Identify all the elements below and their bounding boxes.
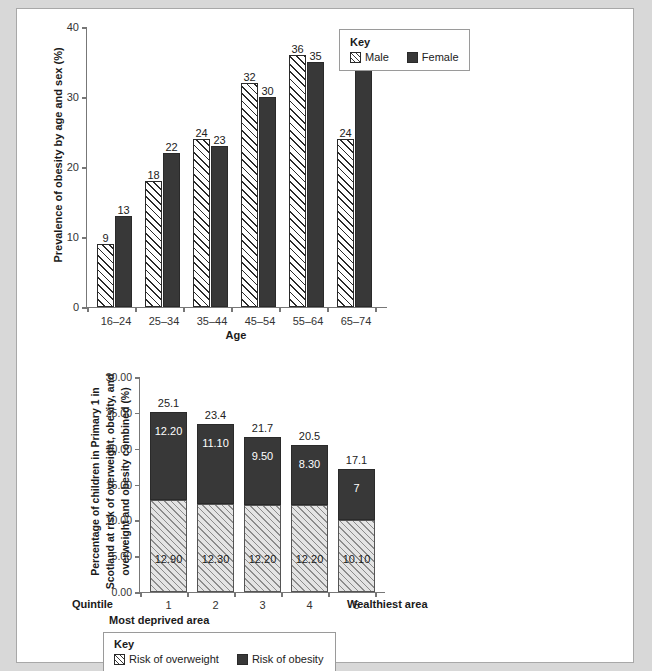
chart1-xtickmark-4 <box>279 307 281 312</box>
chart1-legend: Key Male Female <box>339 29 470 71</box>
chart1-xtickmark-1 <box>135 307 137 312</box>
chart1-bar-male-25-34: 18 <box>145 181 162 307</box>
chart2-label-obesity-3: 9.50 <box>252 450 273 462</box>
chart1-bar-female-55-64: 35 <box>307 62 324 307</box>
chart1-ytick-4: 40 <box>67 21 87 33</box>
chart2-label-obesity-4: 8.30 <box>299 458 320 470</box>
chart2-plot-area: 0.00 5.00 10.00 15.00 20.00 25.00 30.00 … <box>139 377 385 593</box>
chart2-legend-title: Key <box>114 638 323 650</box>
chart1-value-male-16-24: 9 <box>102 232 108 244</box>
chart1-value-female-35-44: 23 <box>213 134 225 146</box>
chart2-bar-quintile-4: 20.5 8.30 12.20 4 <box>291 445 328 592</box>
overweight-swatch-icon <box>114 654 125 665</box>
chart1-value-female-16-24: 13 <box>117 204 129 216</box>
chart1-bar-female-25-34: 22 <box>163 153 180 307</box>
chart2-label-obesity-5: 7 <box>353 482 359 494</box>
chart2-seg-obesity-4: 8.30 <box>291 445 328 505</box>
chart1-value-male-25-34: 18 <box>147 169 159 181</box>
chart1-value-female-25-34: 22 <box>165 141 177 153</box>
chart1-group-45-54: 32 30 45–54 <box>239 27 281 307</box>
chart2-xtick-1: 1 <box>165 599 171 611</box>
chart2-bar-quintile-3: 21.7 9.50 12.20 3 <box>244 437 281 592</box>
chart2-seg-overweight-3: 12.20 <box>244 505 281 592</box>
chart2-ytick-6: 30.00 <box>106 371 140 383</box>
chart2-ytick-5: 25.00 <box>106 407 140 419</box>
chart2-xtickmark-3 <box>281 592 283 597</box>
chart1-x-axis-label: Age <box>86 329 386 341</box>
chart2-ytick-0: 0.00 <box>112 586 140 598</box>
chart2-ytick-3: 15.00 <box>106 479 140 491</box>
chart2-total-2: 23.4 <box>205 409 226 421</box>
chart2-label-overweight-3: 12.20 <box>249 553 277 565</box>
chart1-xtickmark-0 <box>87 307 89 312</box>
page-background: Prevalence of obesity by age and sex (%)… <box>0 0 652 671</box>
chart2-total-5: 17.1 <box>346 454 367 466</box>
chart1-group-25-34: 18 22 25–34 <box>143 27 185 307</box>
chart2-xtickmark-5 <box>375 592 377 597</box>
chart2-seg-overweight-2: 12.30 <box>197 504 234 592</box>
female-swatch-icon <box>407 52 418 63</box>
chart1-xtickmark-5 <box>327 307 329 312</box>
chart1-bar-male-65-74: 24 <box>337 139 354 307</box>
chart1-xtickmark-2 <box>183 307 185 312</box>
chart1-legend-label-female: Female <box>422 51 459 63</box>
chart1-bar-female-35-44: 23 <box>211 146 228 307</box>
figure-sheet: Prevalence of obesity by age and sex (%)… <box>16 8 634 663</box>
chart2-most-deprived-note: Most deprived area <box>109 614 209 626</box>
chart1-bar-male-35-44: 24 <box>193 139 210 307</box>
chart2-xtick-4: 4 <box>306 599 312 611</box>
chart1-bar-male-16-24: 9 <box>97 244 114 307</box>
chart1-ytick-3: 30 <box>67 91 87 103</box>
chart2-xtick-3: 3 <box>259 599 265 611</box>
chart2-xtickmark-4 <box>328 592 330 597</box>
chart2-total-4: 20.5 <box>299 430 320 442</box>
chart2-bar-quintile-2: 23.4 11.10 12.30 2 <box>197 424 234 592</box>
chart1-bar-female-65-74: 35 <box>355 62 372 307</box>
chart2-x-axis-label: Quintile <box>72 598 113 610</box>
chart-primary1-overweight-obesity: Percentage of children in Primary 1 in S… <box>17 349 635 664</box>
chart1-legend-title: Key <box>350 36 459 48</box>
chart2-bar-quintile-1: 25.1 12.20 12.90 1 <box>150 412 187 592</box>
chart2-total-3: 21.7 <box>252 422 273 434</box>
chart2-seg-obesity-3: 9.50 <box>244 437 281 505</box>
chart1-value-male-55-64: 36 <box>291 43 303 55</box>
chart2-label-overweight-4: 12.20 <box>296 553 324 565</box>
chart1-ytick-1: 10 <box>67 231 87 243</box>
chart1-xtickmark-6 <box>375 307 377 312</box>
chart2-xtickmark-1 <box>187 592 189 597</box>
chart2-xtickmark-2 <box>234 592 236 597</box>
chart1-ytick-2: 20 <box>67 161 87 173</box>
chart1-xtick-65-74: 65–74 <box>341 315 372 327</box>
chart2-label-obesity-1: 12.20 <box>155 425 183 437</box>
chart2-legend-label-obesity: Risk of obesity <box>252 653 324 665</box>
chart2-seg-obesity-5: 7 <box>338 469 375 519</box>
chart-obesity-by-age-and-sex: Prevalence of obesity by age and sex (%)… <box>17 9 635 349</box>
chart1-value-male-65-74: 24 <box>339 127 351 139</box>
chart1-bar-male-45-54: 32 <box>241 83 258 307</box>
chart2-label-overweight-5: 10.10 <box>343 553 371 565</box>
chart2-seg-overweight-4: 12.20 <box>291 505 328 592</box>
chart2-label-overweight-2: 12.30 <box>202 553 230 565</box>
chart2-ytick-2: 10.00 <box>106 514 140 526</box>
chart2-seg-obesity-2: 11.10 <box>197 424 234 504</box>
chart1-ytick-0: 0 <box>73 301 87 313</box>
chart1-bar-male-55-64: 36 <box>289 55 306 307</box>
chart1-y-axis-label: Prevalence of obesity by age and sex (%) <box>52 20 64 290</box>
chart1-xtick-25-34: 25–34 <box>149 315 180 327</box>
chart1-value-male-45-54: 32 <box>243 71 255 83</box>
chart1-legend-label-male: Male <box>365 51 389 63</box>
chart1-group-16-24: 9 13 16–24 <box>95 27 137 307</box>
chart1-group-55-64: 36 35 55–64 <box>287 27 329 307</box>
chart2-seg-obesity-1: 12.20 <box>150 412 187 499</box>
chart1-value-male-35-44: 24 <box>195 127 207 139</box>
chart2-seg-overweight-5: 10.10 <box>338 520 375 592</box>
chart2-legend-entries: Risk of overweight Risk of obesity <box>114 653 323 665</box>
obesity-swatch-icon <box>237 654 248 665</box>
chart2-legend: Key Risk of overweight Risk of obesity <box>103 632 336 671</box>
chart1-xtickmark-3 <box>231 307 233 312</box>
chart1-value-female-45-54: 30 <box>261 85 273 97</box>
chart2-ytick-4: 20.00 <box>106 443 140 455</box>
chart2-ytick-1: 5.00 <box>112 550 140 562</box>
chart1-bar-female-45-54: 30 <box>259 97 276 307</box>
chart1-xtick-16-24: 16–24 <box>101 315 132 327</box>
